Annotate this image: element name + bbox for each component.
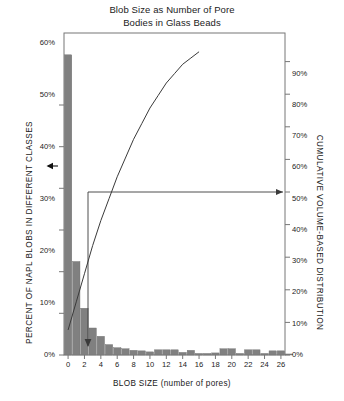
histogram-bar <box>81 308 88 355</box>
x-axis-tick-label: 16 <box>191 360 207 369</box>
y-axis-tick-label-left: 0% <box>29 350 55 359</box>
chart-title-line-2: Bodies in Glass Beads <box>0 17 344 30</box>
y-axis-tick-label-left: 40% <box>29 142 55 151</box>
histogram-bar <box>244 350 251 355</box>
x-axis-tick-label: 14 <box>175 360 191 369</box>
x-axis-tick-label: 24 <box>257 360 273 369</box>
y-axis-tick-label-left: 30% <box>29 194 55 203</box>
histogram-bar <box>138 351 145 355</box>
y-axis-tick-label-right: 0% <box>292 350 318 359</box>
histogram-bar <box>277 351 284 355</box>
histogram-bar <box>220 349 227 355</box>
x-axis-ticks <box>68 355 281 359</box>
histogram-bar <box>146 352 153 355</box>
histogram-bar <box>105 345 112 355</box>
x-axis-tick-label: 26 <box>273 360 289 369</box>
y-axis-tick-label-right: 60% <box>292 162 318 171</box>
x-axis-label: BLOB SIZE (number of pores) <box>57 379 287 388</box>
histogram-bar <box>253 350 260 355</box>
histogram-bar <box>154 350 161 355</box>
y-axis-tick-label-right: 50% <box>292 194 318 203</box>
histogram-bar <box>179 352 186 355</box>
y-axis-tick-label-left: 10% <box>29 298 55 307</box>
x-axis-tick-label: 18 <box>207 360 223 369</box>
y-axis-tick-label-right: 90% <box>292 69 318 78</box>
cumulative-50-percent-arrow <box>88 189 283 195</box>
left-axis-ticks <box>59 105 64 355</box>
right-axis-ticks <box>285 62 290 355</box>
histogram-bar <box>212 353 219 355</box>
histogram-bar <box>187 350 194 355</box>
y-axis-tick-label-right: 10% <box>292 319 318 328</box>
y-axis-tick-label-left: 50% <box>29 90 55 99</box>
histogram-bar <box>261 353 268 355</box>
x-axis-tick-label: 20 <box>224 360 240 369</box>
histogram-bars <box>64 55 292 355</box>
histogram-bar <box>130 350 137 355</box>
x-axis-tick-label: 8 <box>126 360 142 369</box>
histogram-bar <box>122 349 129 355</box>
histogram-bar <box>204 353 211 355</box>
x-axis-tick-label: 4 <box>93 360 109 369</box>
y-axis-tick-label-right: 30% <box>292 256 318 265</box>
histogram-bar <box>114 348 121 355</box>
histogram-bar <box>64 55 71 355</box>
x-axis-tick-label: 2 <box>76 360 92 369</box>
y-axis-tick-label-left: 20% <box>29 246 55 255</box>
histogram-bar <box>163 350 170 355</box>
y-axis-tick-label-right: 40% <box>292 225 318 234</box>
x-axis-tick-label: 22 <box>240 360 256 369</box>
histogram-bar <box>228 349 235 355</box>
left-arrow-to-bars <box>47 163 59 169</box>
y-axis-tick-label-left: 60% <box>29 38 55 47</box>
y-axis-tick-label-right: 70% <box>292 131 318 140</box>
histogram-bar <box>195 353 202 355</box>
histogram-bar <box>236 353 243 355</box>
histogram-bar <box>171 350 178 355</box>
chart-figure: Blob Size as Number of Pore Bodies in Gl… <box>0 0 344 401</box>
x-axis-tick-label: 10 <box>142 360 158 369</box>
x-axis-tick-label: 12 <box>158 360 174 369</box>
chart-title: Blob Size as Number of Pore Bodies in Gl… <box>0 4 344 29</box>
y-axis-tick-label-right: 80% <box>292 100 318 109</box>
y-axis-tick-label-right: 20% <box>292 287 318 296</box>
histogram-bar <box>73 262 80 355</box>
histogram-bar <box>97 336 104 355</box>
histogram-bar <box>269 351 276 355</box>
plot-frame <box>64 33 285 355</box>
x-axis-tick-label: 6 <box>109 360 125 369</box>
chart-title-line-1: Blob Size as Number of Pore <box>0 4 344 17</box>
x-axis-tick-label: 0 <box>60 360 76 369</box>
